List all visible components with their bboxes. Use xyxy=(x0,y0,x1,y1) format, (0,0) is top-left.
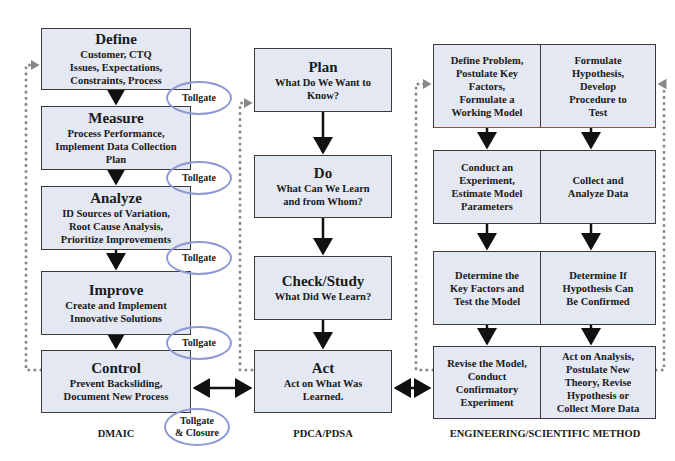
step-desc: Prioritize Improvements xyxy=(61,233,171,246)
step-desc: Issues, Expectations, xyxy=(70,61,162,74)
engineering-caption: ENGINEERING/SCIENTIFIC METHOD xyxy=(420,428,670,439)
step-title: Plan xyxy=(308,59,337,76)
eng-row-3: Determine the Key Factors and Test the M… xyxy=(433,251,656,325)
pdca-caption: PDCA/PDSA xyxy=(254,428,392,439)
eng-cell-right: Collect and Analyze Data xyxy=(541,151,655,223)
step-desc: What Did We Learn? xyxy=(275,290,371,303)
pdca-act-box: Act Act on What Was Learned. xyxy=(254,350,392,413)
step-desc: What Do We Want to xyxy=(275,76,371,89)
cell-line: Hypothesis or xyxy=(567,389,629,402)
step-title: Act xyxy=(312,360,335,377)
step-title: Analyze xyxy=(90,190,142,207)
cell-line: Test xyxy=(589,106,607,119)
step-title: Measure xyxy=(88,110,144,127)
eng-row-2: Conduct an Experiment, Estimate Model Pa… xyxy=(433,150,656,224)
step-title: Define xyxy=(95,31,137,48)
cell-line: Experiment xyxy=(460,396,513,409)
step-title: Control xyxy=(91,360,141,377)
eng-cell-left: Revise the Model, Conduct Confirmatory E… xyxy=(434,347,541,418)
cell-line: Analyze Data xyxy=(568,187,628,200)
tollgate-label: Tollgate xyxy=(182,172,216,184)
dmaic-control-box: Control Prevent Backsliding, Document Ne… xyxy=(41,350,191,413)
eng-cell-left: Conduct an Experiment, Estimate Model Pa… xyxy=(434,151,541,223)
pdca-check-box: Check/Study What Did We Learn? xyxy=(254,256,392,320)
step-desc: Process Performance, xyxy=(67,127,164,140)
cell-line: Test the Model xyxy=(454,295,520,308)
step-desc: Learned. xyxy=(303,390,344,403)
step-desc: Plan xyxy=(106,153,126,166)
cell-line: Formulate xyxy=(574,54,621,67)
cell-line: Factors, xyxy=(469,80,505,93)
step-desc: Act on What Was xyxy=(284,377,363,390)
step-title: Improve xyxy=(89,282,144,299)
eng-cell-left: Determine the Key Factors and Test the M… xyxy=(434,252,541,324)
cell-line: Theory, Revise xyxy=(565,376,632,389)
cell-line: Working Model xyxy=(452,106,523,119)
cell-line: Hypothesis Can xyxy=(563,282,634,295)
step-desc: What Can We Learn xyxy=(276,182,369,195)
cell-line: Revise the Model, xyxy=(447,357,527,370)
cell-line: Determine If xyxy=(569,269,626,282)
step-desc: Know? xyxy=(307,89,339,102)
cell-line: Postulate New xyxy=(566,363,630,376)
dmaic-analyze-box: Analyze ID Sources of Variation, Root Ca… xyxy=(41,186,191,250)
step-desc: Constraints, Process xyxy=(70,74,161,87)
dmaic-measure-box: Measure Process Performance, Implement D… xyxy=(41,106,191,170)
dmaic-caption: DMAIC xyxy=(41,428,191,439)
cell-line: Collect and xyxy=(572,174,623,187)
cell-line: Conduct an xyxy=(461,161,513,174)
dmaic-define-box: Define Customer, CTQ Issues, Expectation… xyxy=(41,28,191,90)
eng-cell-right: Act on Analysis, Postulate New Theory, R… xyxy=(541,347,655,418)
tollgate-closure-badge: Tollgate & Closure xyxy=(164,408,230,446)
cell-line: Be Confirmed xyxy=(566,295,629,308)
pdca-plan-box: Plan What Do We Want to Know? xyxy=(254,48,392,112)
step-desc: Root Cause Analysis, xyxy=(69,220,163,233)
tollgate-badge: Tollgate xyxy=(166,161,232,195)
cell-line: Key Factors and xyxy=(450,282,524,295)
cell-line: Conduct xyxy=(468,370,507,383)
cell-line: Collect More Data xyxy=(557,402,640,415)
step-desc: Innovative Solutions xyxy=(70,312,162,325)
cell-line: Confirmatory xyxy=(456,383,518,396)
cell-line: Develop xyxy=(580,80,616,93)
cell-line: Define Problem, xyxy=(451,54,524,67)
step-desc: ID Sources of Variation, xyxy=(62,207,170,220)
eng-cell-right: Determine If Hypothesis Can Be Confirmed xyxy=(541,252,655,324)
cell-line: Parameters xyxy=(461,200,513,213)
tollgate-badge: Tollgate xyxy=(166,81,232,115)
step-desc: Prevent Backsliding, xyxy=(70,377,163,390)
cell-line: Formulate a xyxy=(459,93,514,106)
cell-line: Experiment, xyxy=(459,174,515,187)
tollgate-label: Tollgate xyxy=(182,252,216,264)
cell-line: Procedure to xyxy=(569,93,627,106)
eng-cell-left: Define Problem, Postulate Key Factors, F… xyxy=(434,45,541,127)
step-title: Do xyxy=(314,165,332,182)
step-desc: Document New Process xyxy=(64,390,169,403)
step-desc: Implement Data Collection xyxy=(55,140,176,153)
dmaic-improve-box: Improve Create and Implement Innovative … xyxy=(41,271,191,335)
step-desc: and from Whom? xyxy=(283,195,363,208)
cell-line: Hypothesis, xyxy=(572,67,624,80)
pdca-do-box: Do What Can We Learn and from Whom? xyxy=(254,155,392,218)
tollgate-badge: Tollgate xyxy=(166,241,232,275)
cell-line: Act on Analysis, xyxy=(562,350,634,363)
cell-line: Estimate Model xyxy=(452,187,523,200)
eng-cell-right: Formulate Hypothesis, Develop Procedure … xyxy=(541,45,655,127)
step-title: Check/Study xyxy=(282,273,365,290)
tollgate-label: Tollgate xyxy=(180,415,214,427)
tollgate-label: Tollgate xyxy=(182,337,216,349)
tollgate-label: Tollgate xyxy=(182,92,216,104)
tollgate-badge: Tollgate xyxy=(166,326,232,360)
step-desc: Create and Implement xyxy=(65,299,166,312)
eng-row-4: Revise the Model, Conduct Confirmatory E… xyxy=(433,346,656,419)
step-desc: Customer, CTQ xyxy=(80,48,151,61)
cell-line: Postulate Key xyxy=(456,67,518,80)
cell-line: Determine the xyxy=(455,269,519,282)
eng-row-1: Define Problem, Postulate Key Factors, F… xyxy=(433,44,656,128)
